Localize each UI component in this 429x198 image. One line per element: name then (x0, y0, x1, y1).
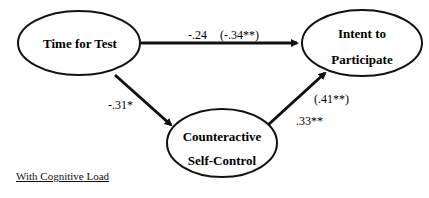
node-label-counteractive-line1: Counteractive (183, 129, 262, 144)
coef-time-to-counteractive: -.31* (108, 98, 133, 112)
coef-time-to-intent-alt: (-.34**) (220, 28, 259, 42)
coef-time-to-intent: -.24 (188, 28, 207, 42)
node-label-intent-line1: Intent to (338, 26, 386, 41)
node-label-counteractive-line2: Self-Control (188, 153, 257, 168)
mediation-diagram: Time for Test Intent to Participate Coun… (0, 0, 429, 198)
coef-counteractive-to-intent: .33** (296, 114, 323, 128)
coef-counteractive-to-intent-alt: (.41**) (314, 92, 349, 106)
node-label-intent-line2: Participate (331, 52, 393, 67)
node-label-time-for-test: Time for Test (43, 36, 118, 51)
diagram-caption: With Cognitive Load (16, 170, 109, 182)
